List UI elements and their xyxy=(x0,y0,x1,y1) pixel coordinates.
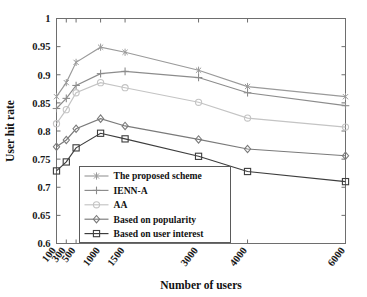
series-1 xyxy=(53,68,350,113)
series-line xyxy=(57,47,346,97)
legend-item-label: The proposed scheme xyxy=(114,170,203,181)
legend-item-label: AA xyxy=(114,199,128,210)
y-axis-tick-label: 0.8 xyxy=(37,126,50,137)
legend-item-label: Based on user interest xyxy=(114,228,205,239)
x-axis-tick-label: 1500 xyxy=(105,245,127,268)
x-axis-tick-label: 6000 xyxy=(325,245,347,268)
y-axis-tick-label: 1 xyxy=(45,13,50,24)
plus-marker xyxy=(195,74,203,82)
x-axis-tick-label: 4000 xyxy=(228,245,250,268)
y-axis-tick-label: 0.75 xyxy=(32,154,50,165)
line-chart: 0.60.650.70.750.80.850.90.95110030050010… xyxy=(0,0,367,297)
asterisk-marker xyxy=(74,59,79,66)
y-axis-tick-label: 0.85 xyxy=(32,98,50,109)
x-axis-tick-label: 3000 xyxy=(179,245,201,268)
plus-marker xyxy=(97,70,105,78)
asterisk-marker xyxy=(54,93,59,100)
series-layer xyxy=(53,44,350,185)
series-line xyxy=(57,119,346,156)
legend-item-label: IENN-A xyxy=(114,185,148,196)
legend-layer: The proposed schemeIENN-AAABased on popu… xyxy=(80,167,231,243)
series-0 xyxy=(54,44,348,101)
series-2 xyxy=(53,80,348,131)
plus-marker xyxy=(244,89,252,97)
y-axis-tick-label: 0.9 xyxy=(37,70,50,81)
y-axis-tick-label: 0.7 xyxy=(37,182,50,193)
y-axis-tick-label: 0.95 xyxy=(32,41,50,52)
asterisk-marker xyxy=(64,79,69,86)
x-axis-title: Number of users xyxy=(160,279,242,291)
chart-figure: 0.60.650.70.750.80.850.90.95110030050010… xyxy=(0,0,367,297)
legend-item-label: Based on popularity xyxy=(114,214,197,225)
y-axis-title: User hit rate xyxy=(4,100,16,162)
plus-marker xyxy=(121,68,129,76)
x-axis-tick-label: 1000 xyxy=(81,245,103,268)
y-axis-tick-label: 0.65 xyxy=(32,210,50,221)
